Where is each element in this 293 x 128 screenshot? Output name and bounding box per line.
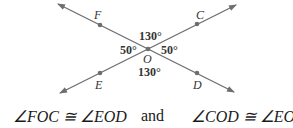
point-o: [146, 47, 151, 52]
point-f: [98, 23, 103, 28]
caption-left: ∠FOC ≅ ∠EOD: [13, 107, 127, 126]
angle-top: 130°: [139, 29, 162, 43]
label-d: D: [192, 78, 202, 92]
point-e: [98, 71, 103, 76]
angle-right: 50°: [161, 43, 178, 57]
caption-middle: and: [141, 107, 164, 125]
label-f: F: [93, 8, 102, 22]
caption-right: ∠COD ≅ ∠EOF: [191, 107, 293, 126]
label-o: O: [143, 52, 152, 66]
point-d: [195, 71, 200, 76]
point-c: [195, 22, 200, 27]
angle-left: 50°: [120, 43, 137, 57]
label-c: C: [196, 8, 205, 22]
label-e: E: [94, 78, 103, 92]
angle-bottom: 130°: [138, 65, 161, 79]
